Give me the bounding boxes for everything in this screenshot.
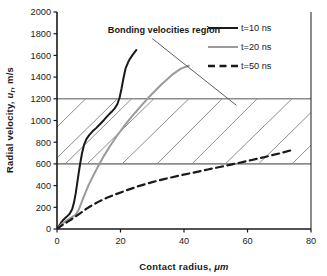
y-tick-label-1800: 1800 xyxy=(31,29,51,39)
x-axis-unit: μm xyxy=(213,261,229,272)
y-tick-label-1000: 1000 xyxy=(31,116,51,126)
y-tick-label-1400: 1400 xyxy=(31,72,51,82)
annotation-label: Bonding velocities region xyxy=(108,25,221,35)
chart-figure: Bonding velocities region 02004006008001… xyxy=(0,0,327,276)
y-tick-label-1200: 1200 xyxy=(31,94,51,104)
y-axis-title: Radial velocity, ur, m/s xyxy=(4,67,16,173)
x-tick-label-40: 40 xyxy=(179,236,189,246)
y-tick-label-600: 600 xyxy=(36,159,51,169)
y-tick-label-200: 200 xyxy=(36,203,51,213)
y-tick-label-400: 400 xyxy=(36,181,51,191)
x-axis-title: Contact radius, μm xyxy=(139,261,228,272)
legend-label-1: t=20 ns xyxy=(241,42,272,52)
y-tick-label-1600: 1600 xyxy=(31,51,51,61)
x-tick-label-60: 60 xyxy=(242,236,252,246)
x-tick-label-0: 0 xyxy=(54,236,59,246)
y-axis-unit: , m/s xyxy=(4,67,15,90)
x-tick-label-80: 80 xyxy=(306,236,316,246)
radial-velocity-chart: Bonding velocities region 02004006008001… xyxy=(0,0,327,276)
legend-label-2: t=50 ns xyxy=(241,61,272,71)
legend-label-0: t=10 ns xyxy=(241,23,272,33)
x-tick-label-20: 20 xyxy=(115,236,125,246)
y-tick-label-0: 0 xyxy=(46,224,51,234)
y-tick-label-800: 800 xyxy=(36,138,51,148)
y-tick-label-2000: 2000 xyxy=(31,7,51,17)
